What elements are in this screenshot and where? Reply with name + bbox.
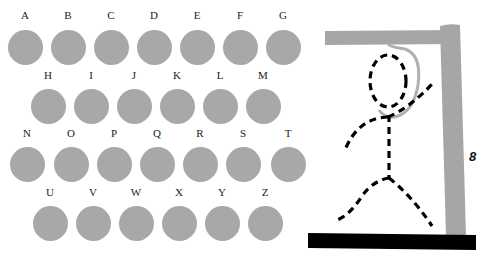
gallows-post — [440, 24, 466, 236]
hangman-drawing — [0, 0, 491, 273]
gallows-base — [308, 233, 476, 250]
figure-head — [370, 55, 406, 107]
gallows-beam — [325, 30, 458, 45]
figure-right-arm — [388, 82, 434, 117]
figure-left-leg — [337, 178, 389, 220]
figure-left-arm — [345, 117, 388, 150]
guess-counter: 8 — [469, 149, 476, 164]
figure-right-leg — [389, 178, 432, 226]
